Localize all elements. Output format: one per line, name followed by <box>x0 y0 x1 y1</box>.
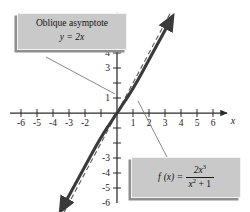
callout-function-formula: f(x) = 2x3 x2 + 1 <box>131 157 241 198</box>
asymptote-lhs: y <box>60 32 64 44</box>
callout-asymptote-equation: y = 2x <box>20 32 124 44</box>
x-tick-label: 4 <box>179 118 184 128</box>
asymptote-equals: = <box>67 32 72 44</box>
formula-equals: = <box>177 172 182 184</box>
y-tick-label: 3 <box>105 63 110 73</box>
x-tick-label: -6 <box>17 118 25 128</box>
x-tick-label: 5 <box>195 118 200 128</box>
y-tick-label: -6 <box>102 198 110 208</box>
x-tick-label: -3 <box>65 118 73 128</box>
x-tick-labels: -6 -5 -4 -3 -2 1 2 3 4 5 6 <box>17 118 216 128</box>
formula-leader-line <box>138 101 167 157</box>
formula-equation: f(x) = 2x3 x2 + 1 <box>134 165 238 191</box>
x-tick-label: 6 <box>211 118 216 128</box>
asymptote-rhs: 2x <box>75 32 84 44</box>
x-tick-label: -2 <box>81 118 89 128</box>
x-axis-label: x <box>230 115 236 126</box>
x-tick-label: 3 <box>163 118 168 128</box>
x-tick-label: -5 <box>33 118 41 128</box>
y-tick-label: -5 <box>102 183 110 193</box>
callout-asymptote-title: Oblique asymptote <box>20 18 124 30</box>
y-tick-label: 1 <box>105 93 110 103</box>
formula-denominator: x2 + 1 <box>186 177 214 191</box>
formula-fraction: 2x3 x2 + 1 <box>186 165 214 191</box>
y-tick-label: -4 <box>102 168 110 178</box>
x-tick-label: 1 <box>131 118 136 128</box>
callout-oblique-asymptote: Oblique asymptote y = 2x <box>17 13 127 50</box>
formula-numerator: 2x3 <box>191 165 209 177</box>
formula-fn-name: f <box>158 172 161 184</box>
x-tick-label: -4 <box>49 118 57 128</box>
y-tick-label: -3 <box>102 153 110 163</box>
formula-fn-var: (x) <box>164 172 175 184</box>
